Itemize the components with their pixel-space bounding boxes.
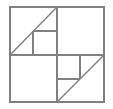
figure-canvas [0,0,113,109]
geometric-figure-svg [0,0,113,109]
